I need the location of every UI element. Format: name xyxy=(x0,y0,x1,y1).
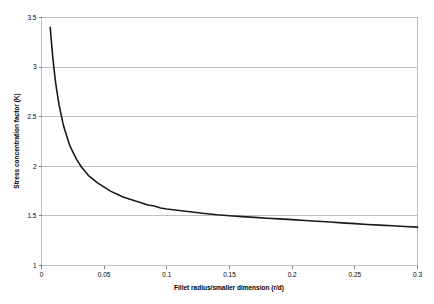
x-tick-label: 0.1 xyxy=(162,271,171,278)
plot-area-background xyxy=(42,18,418,266)
x-tick-label: 0.05 xyxy=(98,271,111,278)
y-axis-title: Stress concentration factor (K) xyxy=(13,93,21,188)
x-tick-label: 0.3 xyxy=(413,271,422,278)
x-tick-label: 0.25 xyxy=(349,271,362,278)
y-tick-label: 3 xyxy=(33,63,37,70)
y-tick-label: 3.5 xyxy=(27,14,36,21)
y-tick-label: 2 xyxy=(33,163,37,170)
y-tick-label: 2.5 xyxy=(27,113,36,120)
x-axis-title: Fillet radius/smaller dimension (r/d) xyxy=(174,284,284,292)
x-tick-label: 0 xyxy=(40,271,44,278)
x-tick-label: 0.15 xyxy=(223,271,236,278)
chart-canvas: 00.050.10.150.20.250.3 11.522.533.5 Fill… xyxy=(0,0,434,304)
y-tick-label: 1.5 xyxy=(27,212,36,219)
y-tick-label: 1 xyxy=(33,262,37,269)
stress-concentration-chart: 00.050.10.150.20.250.3 11.522.533.5 Fill… xyxy=(0,0,434,304)
x-tick-label: 0.2 xyxy=(288,271,297,278)
